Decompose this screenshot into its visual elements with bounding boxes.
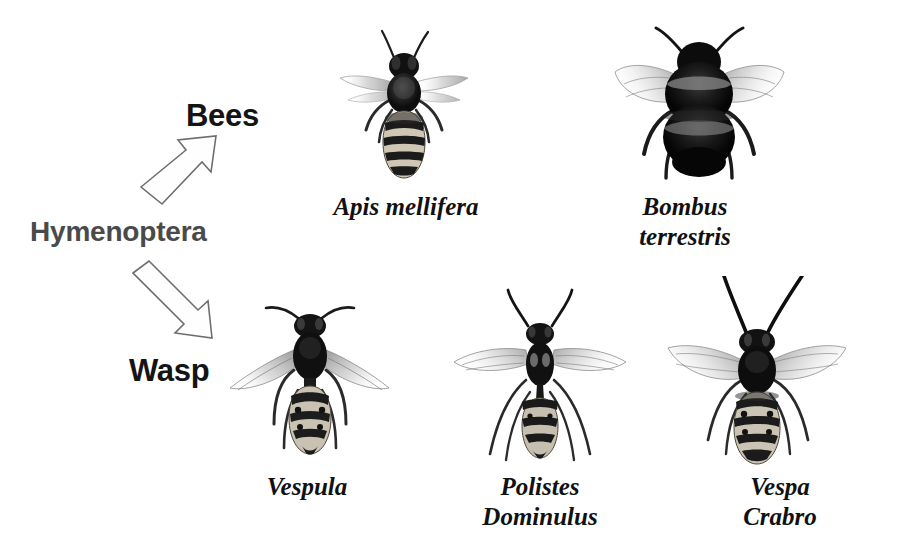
bumblebee-illustration	[612, 12, 788, 192]
species-name-line1: Polistes	[452, 472, 628, 502]
species-label-vespa-crabro: Vespa Crabro	[692, 472, 868, 531]
species-label-vespula: Vespula	[222, 472, 392, 502]
specimen-polistes-dominulus	[452, 288, 628, 468]
species-name-line1: Bombus	[595, 192, 775, 222]
hymenoptera-classification-figure: Hymenoptera Bees Wasp	[0, 0, 913, 548]
species-name-line1: Apis mellifera	[333, 193, 478, 220]
arrow-up-right-icon	[138, 128, 230, 210]
polistes-illustration	[452, 288, 628, 468]
group-label-wasp: Wasp	[129, 353, 209, 389]
species-label-bombus-terrestris: Bombus terrestris	[595, 192, 775, 251]
species-name-line2: Dominulus	[452, 502, 628, 532]
arrow-to-bees	[138, 128, 230, 210]
species-label-polistes-dominulus: Polistes Dominulus	[452, 472, 628, 531]
honeybee-illustration	[338, 18, 470, 196]
specimen-apis-mellifera	[338, 18, 470, 196]
taxon-label-hymenoptera: Hymenoptera	[30, 216, 207, 248]
arrow-down-right-icon	[128, 258, 226, 354]
species-name-line2: terrestris	[595, 222, 775, 252]
species-name-line1: Vespa	[692, 472, 868, 502]
specimen-vespa-crabro	[662, 276, 852, 468]
species-label-apis-mellifera: Apis mellifera	[318, 192, 494, 222]
species-name-line1: Vespula	[267, 473, 348, 500]
vespula-illustration	[226, 288, 392, 464]
specimen-vespula	[226, 288, 392, 464]
vespa-crabro-illustration	[662, 276, 852, 468]
species-name-line2: Crabro	[692, 502, 868, 532]
specimen-bombus-terrestris	[612, 12, 788, 192]
arrow-to-wasp	[128, 258, 226, 354]
